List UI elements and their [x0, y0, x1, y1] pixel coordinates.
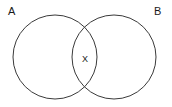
- set-label-a: A: [8, 6, 16, 17]
- set-label-b: B: [154, 6, 162, 17]
- intersection-label-x: X: [82, 55, 88, 64]
- venn-diagram: A B X: [0, 0, 172, 107]
